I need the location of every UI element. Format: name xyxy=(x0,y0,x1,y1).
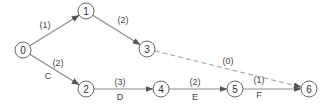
edge-activity-label: D xyxy=(117,92,124,102)
edge-activity-label: F xyxy=(256,90,262,100)
edge-1-3-arrow xyxy=(93,15,140,44)
edge-duration-label: (0) xyxy=(223,56,234,66)
node-5: 5 xyxy=(227,81,243,97)
edge-duration-label: (2) xyxy=(190,77,201,87)
edge-duration-label: (1) xyxy=(254,75,265,85)
edge-activity-label: E xyxy=(192,92,198,102)
edge-duration-label: (3) xyxy=(115,77,126,87)
edge-duration-label: (1) xyxy=(40,20,51,30)
edge-duration-label: (2) xyxy=(118,15,129,25)
node-label: 6 xyxy=(306,84,312,95)
edge-activity-label: C xyxy=(45,71,52,81)
diagram-svg: (1)(2)(2)C(3)D(2)E(1)F(0) 0123456 xyxy=(0,0,322,106)
node-1: 1 xyxy=(78,3,94,19)
node-label: 0 xyxy=(20,45,26,56)
node-label: 4 xyxy=(158,84,164,95)
node-label: 5 xyxy=(232,84,238,95)
node-label: 1 xyxy=(83,6,89,17)
edge-0-1-arrow xyxy=(30,15,79,45)
node-label: 3 xyxy=(144,44,150,55)
activity-network-diagram: (1)(2)(2)C(3)D(2)E(1)F(0) 0123456 xyxy=(0,0,322,106)
edge-duration-label: (2) xyxy=(53,58,64,68)
node-2: 2 xyxy=(78,81,94,97)
node-label: 2 xyxy=(83,84,89,95)
node-4: 4 xyxy=(153,81,169,97)
node-0: 0 xyxy=(15,42,31,58)
node-6: 6 xyxy=(301,81,317,97)
node-3: 3 xyxy=(139,41,155,57)
nodes-layer: 0123456 xyxy=(15,3,317,97)
